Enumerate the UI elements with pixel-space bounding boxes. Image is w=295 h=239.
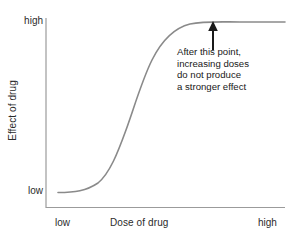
y-tick-high-label: high (4, 15, 43, 26)
x-tick-low-label: low (55, 217, 70, 228)
annotation-line-1: After this point, (177, 46, 249, 58)
y-tick-low-label: low (4, 185, 43, 196)
annotation-line-2: increasing doses (177, 58, 249, 70)
x-tick-high-label: high (258, 217, 277, 228)
dose-response-curve (58, 22, 285, 193)
annotation-line-4: a stronger effect (177, 81, 249, 93)
annotation-line-3: do not produce (177, 69, 249, 81)
x-axis-title: Dose of drug (110, 217, 168, 228)
chart-canvas (0, 0, 295, 239)
plateau-annotation: After this point, increasing doses do no… (177, 46, 249, 92)
dose-response-chart: high low Effect of drug low high Dose of… (0, 0, 295, 239)
y-axis-title: Effect of drug (7, 61, 18, 161)
